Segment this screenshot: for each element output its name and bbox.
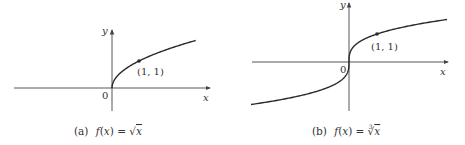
y-axis-label: y [101, 25, 108, 36]
point-marker [375, 32, 379, 36]
origin-label: 0 [340, 64, 346, 75]
y-axis-label: y [339, 0, 346, 10]
point-label: (1, 1) [371, 41, 398, 52]
caption-b: (b) f(x) = 3√x [312, 123, 380, 137]
panel-b-graph: (1, 1) 0 x y (b) f(x) = 3√x [251, 0, 448, 137]
sqrt-curve [112, 40, 196, 88]
origin-label: 0 [102, 90, 108, 101]
panel-a-graph: (1, 1) 0 x y (a) f(x) = √x [14, 25, 210, 137]
figure: (1, 1) 0 x y (a) f(x) = √x (1, 1) 0 x y … [0, 0, 465, 145]
x-axis-label: x [440, 66, 446, 77]
caption-a: (a) f(x) = √x [74, 125, 142, 137]
x-axis-label: x [203, 92, 209, 103]
point-label: (1, 1) [137, 66, 164, 77]
point-marker [137, 59, 141, 63]
